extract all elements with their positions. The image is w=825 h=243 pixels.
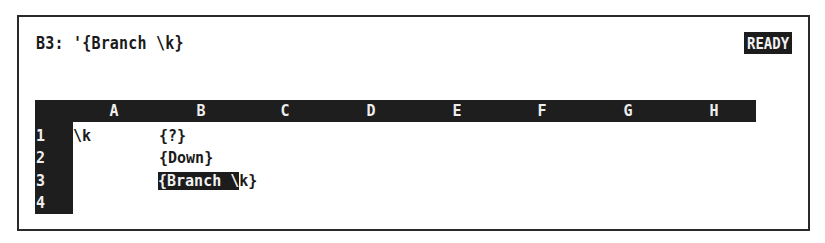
column-header-f[interactable]: F [532, 100, 552, 122]
row-header-2[interactable]: 2 [36, 147, 45, 169]
column-header-d[interactable]: D [361, 100, 381, 122]
row-header-4[interactable]: 4 [36, 192, 45, 214]
cell-b2[interactable]: {Down} [159, 147, 213, 169]
current-cell-contents: '{Branch \k} [73, 33, 184, 54]
column-header-e[interactable]: E [447, 100, 467, 122]
row-header-1[interactable]: 1 [36, 125, 45, 147]
cell-b3[interactable]: {Branch \k} [158, 170, 257, 192]
column-header-a[interactable]: A [104, 100, 124, 122]
column-header-b[interactable]: B [191, 100, 211, 122]
cell-a1[interactable]: \k [73, 125, 91, 147]
column-header-g[interactable]: G [618, 100, 638, 122]
column-header-h[interactable]: H [704, 100, 724, 122]
column-header-bar: A B C D E F G H [35, 100, 756, 122]
cell-b3-overflow: k} [239, 172, 257, 190]
row-header-bar: 1 2 3 4 [35, 122, 73, 214]
row-header-3[interactable]: 3 [36, 170, 45, 192]
column-header-c[interactable]: C [275, 100, 295, 122]
mode-indicator: READY [744, 32, 792, 54]
control-panel-line: B3: '{Branch \k} [36, 33, 184, 54]
cell-pointer: {Branch \ [158, 172, 239, 190]
cell-b1[interactable]: {?} [159, 125, 186, 147]
current-cell-address: B3: [36, 33, 64, 54]
